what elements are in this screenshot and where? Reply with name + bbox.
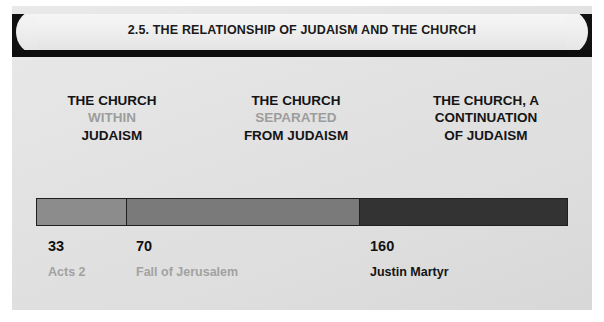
heading-column-2: THE CHURCH SEPARATED FROM JUDAISM: [198, 92, 394, 144]
heading-1-line-3: JUDAISM: [26, 127, 198, 144]
marker-1-date: 33: [48, 238, 86, 254]
slide-title: 2.5. THE RELATIONSHIP OF JUDAISM AND THE…: [12, 23, 592, 37]
marker-3-event: Justin Martyr: [370, 265, 449, 279]
timeline-marker-2: 70 Fall of Jerusalem: [136, 238, 238, 279]
timeline-labels: 33 Acts 2 70 Fall of Jerusalem 160 Justi…: [12, 238, 592, 290]
heading-3-line-2: CONTINUATION: [394, 109, 578, 126]
marker-2-date: 70: [136, 238, 238, 254]
timeline-marker-3: 160 Justin Martyr: [370, 238, 449, 279]
timeline-segment-1: [37, 199, 126, 225]
heading-1-line-1: THE CHURCH: [26, 92, 198, 109]
heading-2-line-1: THE CHURCH: [198, 92, 394, 109]
marker-3-date: 160: [370, 238, 449, 254]
heading-3-line-1: THE CHURCH, A: [394, 92, 578, 109]
heading-column-3: THE CHURCH, A CONTINUATION OF JUDAISM: [394, 92, 578, 144]
timeline-bar: [36, 198, 568, 226]
heading-columns: THE CHURCH WITHIN JUDAISM THE CHURCH SEP…: [26, 92, 578, 144]
slide-canvas: 2.5. THE RELATIONSHIP OF JUDAISM AND THE…: [12, 6, 592, 310]
title-underline-rule: [12, 50, 592, 57]
heading-1-line-2: WITHIN: [26, 109, 198, 126]
timeline-segment-2: [126, 199, 359, 225]
heading-3-line-3: OF JUDAISM: [394, 127, 578, 144]
marker-2-event: Fall of Jerusalem: [136, 265, 238, 279]
heading-2-line-3: FROM JUDAISM: [198, 127, 394, 144]
marker-1-event: Acts 2: [48, 265, 86, 279]
timeline-marker-1: 33 Acts 2: [48, 238, 86, 279]
timeline-segment-3: [359, 199, 567, 225]
heading-2-line-2: SEPARATED: [198, 109, 394, 126]
title-banner: 2.5. THE RELATIONSHIP OF JUDAISM AND THE…: [12, 14, 592, 50]
heading-column-1: THE CHURCH WITHIN JUDAISM: [26, 92, 198, 144]
